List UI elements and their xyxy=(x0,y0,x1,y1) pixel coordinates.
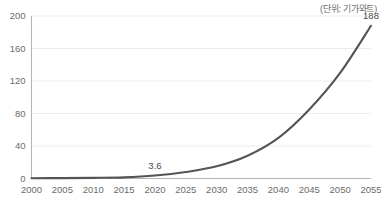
x-tick-label: 2030 xyxy=(206,184,227,195)
y-tick-label: 0 xyxy=(20,173,25,184)
y-tick-label: 160 xyxy=(10,43,26,54)
y-tick-label: 200 xyxy=(10,10,26,21)
y-tick-label: 120 xyxy=(10,75,26,86)
y-tick-label: 80 xyxy=(15,108,26,119)
x-tick-label: 2020 xyxy=(144,184,165,195)
line-chart: (단위: 기가와트) 04080120160200 20002005201020… xyxy=(0,0,381,204)
x-tick-label: 2025 xyxy=(175,184,196,195)
x-tick-label: 2015 xyxy=(114,184,135,195)
data-point-label: 3.6 xyxy=(148,160,161,171)
x-tick-label: 2050 xyxy=(330,184,351,195)
y-tick-label: 40 xyxy=(15,140,26,151)
data-point-label: 188 xyxy=(363,10,379,21)
x-tick-label: 2010 xyxy=(83,184,104,195)
x-tick-label: 2035 xyxy=(237,184,258,195)
x-tick-label: 2005 xyxy=(52,184,73,195)
x-tick-label: 2000 xyxy=(21,184,42,195)
chart-plot-area: 04080120160200 2000200520102015202020252… xyxy=(0,0,381,204)
gridlines xyxy=(32,16,372,146)
x-tick-label: 2040 xyxy=(268,184,289,195)
x-tick-label: 2055 xyxy=(360,184,381,195)
y-axis-tick-labels: 04080120160200 xyxy=(10,10,26,184)
x-axis-tick-labels: 2000200520102015202020252030203520402045… xyxy=(21,184,381,195)
x-tick-label: 2045 xyxy=(299,184,320,195)
